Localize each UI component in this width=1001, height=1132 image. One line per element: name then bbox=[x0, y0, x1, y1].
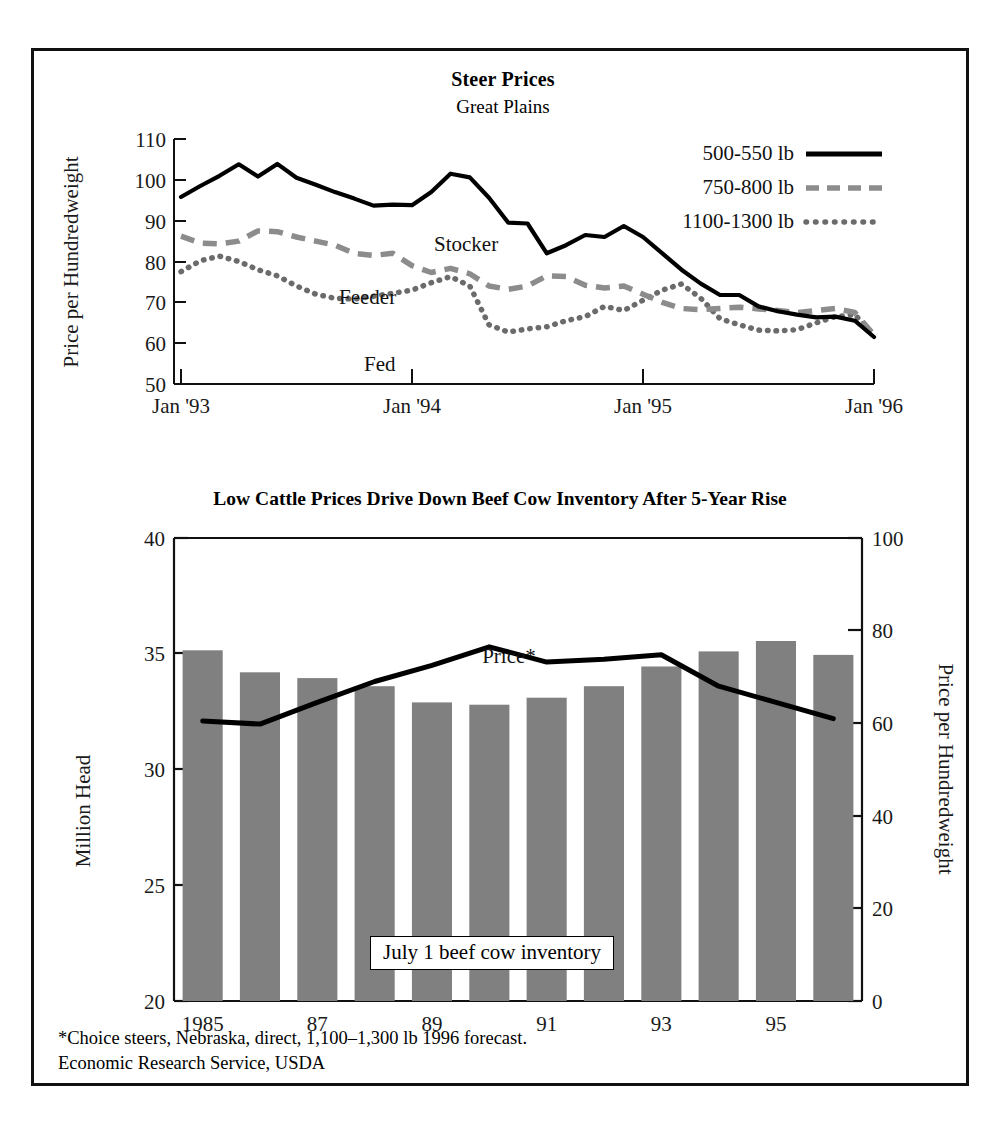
bar-1987 bbox=[297, 678, 337, 1001]
bottom-x-tick-93: 93 bbox=[651, 1012, 672, 1036]
bottom-x-tick-95: 95 bbox=[766, 1012, 787, 1036]
top-x-tick-jan96: Jan '96 bbox=[845, 394, 903, 418]
figure-page: Steer Prices Great Plains 110 bbox=[0, 0, 1001, 1132]
bar-1986 bbox=[240, 672, 280, 1001]
bottom-left-tick-25: 25 bbox=[144, 874, 165, 898]
bottom-right-tick-80: 80 bbox=[872, 619, 893, 643]
inventory-callout: July 1 beef cow inventory bbox=[370, 936, 614, 970]
bottom-x-tick-91: 91 bbox=[536, 1012, 557, 1036]
footnote: *Choice steers, Nebraska, direct, 1,100–… bbox=[58, 1026, 527, 1076]
top-y-tick-70: 70 bbox=[145, 291, 166, 315]
steer-prices-chart: Steer Prices Great Plains 110 bbox=[34, 51, 972, 441]
price-line bbox=[203, 647, 834, 724]
bottom-right-tick-0: 0 bbox=[872, 990, 883, 1014]
bottom-right-tick-20: 20 bbox=[872, 897, 893, 921]
top-chart-legend: 500-550 lb 750-800 lb 1100-1300 lb bbox=[682, 141, 882, 233]
bottom-left-tick-35: 35 bbox=[144, 642, 165, 666]
bottom-left-tick-40: 40 bbox=[144, 527, 165, 551]
legend-label-500-550: 500-550 lb bbox=[702, 141, 794, 165]
top-chart-svg: 110 100 90 80 70 60 50 Jan '93 Jan '94 J… bbox=[34, 51, 972, 441]
bar-1995 bbox=[756, 641, 796, 1001]
top-x-tick-jan93: Jan '93 bbox=[152, 394, 210, 418]
bottom-left-ticks bbox=[174, 538, 188, 1001]
top-x-ticks bbox=[181, 369, 874, 384]
stocker-annotation: Stocker bbox=[434, 232, 498, 256]
bottom-chart-title: Low Cattle Prices Drive Down Beef Cow In… bbox=[34, 488, 966, 510]
footnote-line-2: Economic Research Service, USDA bbox=[58, 1051, 527, 1076]
top-y-axis-label: Price per Hundredweight bbox=[59, 156, 83, 367]
top-y-tick-80: 80 bbox=[145, 251, 166, 275]
bottom-left-tick-20: 20 bbox=[144, 990, 165, 1014]
legend-label-1100-1300: 1100-1300 lb bbox=[682, 209, 794, 233]
feeder-line-750-800lb bbox=[181, 231, 874, 335]
footnote-line-1: *Choice steers, Nebraska, direct, 1,100–… bbox=[58, 1026, 527, 1051]
legend-label-750-800: 750-800 lb bbox=[702, 175, 794, 199]
top-x-tick-jan95: Jan '95 bbox=[614, 394, 672, 418]
top-y-tick-90: 90 bbox=[145, 210, 166, 234]
bottom-left-axis-label: Million Head bbox=[71, 754, 95, 867]
bottom-left-tick-30: 30 bbox=[144, 758, 165, 782]
fed-line-1100-1300lb bbox=[181, 256, 874, 335]
bottom-right-tick-100: 100 bbox=[872, 527, 904, 551]
top-y-tick-100: 100 bbox=[135, 169, 167, 193]
figure-frame: Steer Prices Great Plains 110 bbox=[31, 48, 969, 1086]
top-y-tick-60: 60 bbox=[145, 332, 166, 356]
feeder-annotation: Feeder bbox=[339, 285, 396, 309]
fed-annotation: Fed bbox=[364, 352, 396, 376]
price-annotation: Price* bbox=[482, 644, 536, 668]
bottom-right-axis-label: Price per Hundredweight bbox=[934, 663, 958, 874]
bottom-right-tick-60: 60 bbox=[872, 712, 893, 736]
bottom-right-ticks bbox=[848, 538, 862, 1001]
bar-1994 bbox=[699, 651, 739, 1001]
bar-1993 bbox=[641, 667, 681, 1002]
top-x-tick-jan94: Jan '94 bbox=[383, 394, 442, 418]
bar-1996 bbox=[813, 655, 853, 1001]
bottom-right-tick-40: 40 bbox=[872, 805, 893, 829]
top-y-ticks bbox=[174, 139, 186, 384]
top-y-tick-110: 110 bbox=[135, 128, 166, 152]
bar-1985 bbox=[183, 650, 223, 1001]
